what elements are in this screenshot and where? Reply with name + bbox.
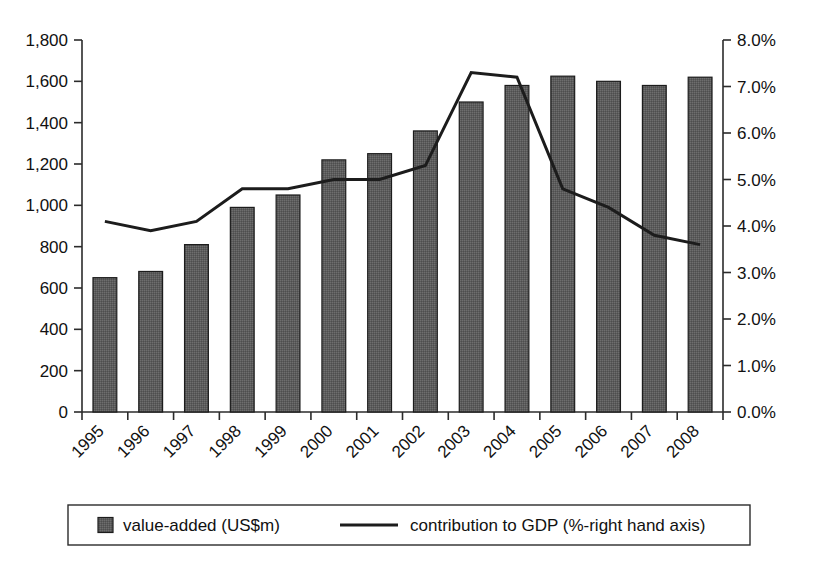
bar xyxy=(185,245,209,412)
right-axis-tick-label: 0.0% xyxy=(737,403,776,422)
legend-label-value-added: value-added (US$m) xyxy=(123,516,280,535)
bar xyxy=(642,85,666,412)
right-axis-tick-label: 3.0% xyxy=(737,264,776,283)
bar xyxy=(505,85,529,412)
right-axis-tick-label: 2.0% xyxy=(737,310,776,329)
left-axis-tick-label: 0 xyxy=(59,403,68,422)
right-axis-tick-label: 6.0% xyxy=(737,124,776,143)
left-axis-tick-label: 800 xyxy=(40,238,68,257)
right-axis-tick-label: 7.0% xyxy=(737,78,776,97)
chart-figure: 02004006008001,0001,2001,4001,6001,800 0… xyxy=(0,0,815,564)
right-axis-tick-label: 1.0% xyxy=(737,357,776,376)
bar xyxy=(368,154,392,412)
right-axis-tick-label: 8.0% xyxy=(737,31,776,50)
right-axis-tick-label: 5.0% xyxy=(737,171,776,190)
bar xyxy=(322,160,346,412)
bar xyxy=(230,207,254,412)
left-axis-tick-label: 1,800 xyxy=(25,31,68,50)
combo-bar-line-chart: 02004006008001,0001,2001,4001,6001,800 0… xyxy=(0,0,815,564)
bar xyxy=(276,195,300,412)
right-axis-tick-label: 4.0% xyxy=(737,217,776,236)
left-axis-tick-label: 1,400 xyxy=(25,114,68,133)
left-axis-tick-label: 1,600 xyxy=(25,72,68,91)
left-axis-tick-label: 1,000 xyxy=(25,196,68,215)
bar xyxy=(459,102,483,412)
bar xyxy=(139,271,163,412)
left-axis-tick-label: 200 xyxy=(40,362,68,381)
left-axis-tick-label: 1,200 xyxy=(25,155,68,174)
bar xyxy=(93,278,117,412)
bar xyxy=(551,76,575,412)
left-axis-tick-label: 600 xyxy=(40,279,68,298)
bar xyxy=(597,81,621,412)
left-axis-tick-label: 400 xyxy=(40,320,68,339)
legend-swatch-bar-icon xyxy=(98,518,113,533)
bar xyxy=(413,131,437,412)
legend-label-gdp-contribution: contribution to GDP (%-right hand axis) xyxy=(410,516,705,535)
chart-legend: value-added (US$m)contribution to GDP (%… xyxy=(68,505,750,545)
